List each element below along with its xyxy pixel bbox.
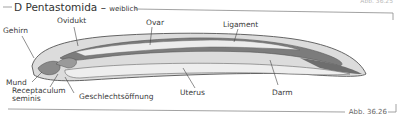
label-darm: Darm [272,89,293,97]
title-subtitle: weiblich [109,5,138,13]
title-separator: – [101,1,106,13]
label-gehirn: Gehirn [3,27,28,35]
figure-number: Abb. 36.26 [349,108,387,116]
diagram-title: D Pentastomida – weiblich [14,1,138,13]
diagram-frame: D Pentastomida – weiblich Abb. 36.25 Geh… [0,0,405,118]
faint-corner-text: Abb. 36.25 [360,0,393,4]
label-uterus: Uterus [180,89,205,97]
label-ovidukt: Ovidukt [57,17,86,25]
label-ovar: Ovar [146,19,164,27]
label-receptaculum-line2: seminis [12,95,41,103]
label-geschlechtsoeffnung: Geschlechtsöffnung [79,93,153,101]
title-main: D Pentastomida [14,1,97,13]
label-ligament: Ligament [223,21,258,29]
